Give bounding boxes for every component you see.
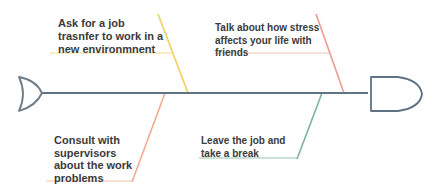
- bone-bottom-left-diagonal: [132, 93, 165, 182]
- cause-label-top-right: Talk about how stress affects your life …: [215, 22, 319, 60]
- fish-head-icon: [371, 77, 422, 111]
- cause-label-line: affects your life with: [215, 35, 319, 48]
- cause-label-top-left: Ask for a job trasnfer to work in a new …: [58, 17, 163, 56]
- cause-label-bottom-right: Leave the job and take a break: [201, 135, 285, 160]
- cause-label-line: take a break: [201, 148, 285, 161]
- cause-label-line: friends: [215, 47, 319, 60]
- fish-tail-icon: [19, 77, 42, 111]
- cause-label-line: problems: [54, 172, 132, 185]
- cause-label-line: Leave the job and: [201, 135, 285, 148]
- cause-label-line: Ask for a job: [58, 17, 163, 30]
- cause-label-line: Talk about how stress: [215, 22, 319, 35]
- cause-label-bottom-left: Consult with supervisors about the work …: [54, 134, 132, 184]
- cause-label-line: about the work: [54, 159, 132, 172]
- cause-label-line: new environmnent: [58, 43, 163, 56]
- cause-label-line: Consult with: [54, 134, 132, 147]
- bone-bottom-right-diagonal: [297, 93, 322, 159]
- cause-label-line: supervisors: [54, 147, 132, 160]
- cause-label-line: trasnfer to work in a: [58, 30, 163, 43]
